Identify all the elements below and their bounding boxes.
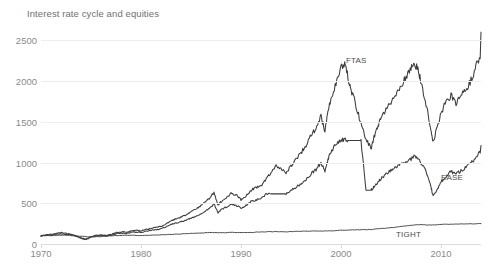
gridline-y [41,122,481,123]
x-axis-labels: 19701980199020002010 [41,248,481,264]
series-annotation-ease: EASE [441,173,463,182]
gridline-y [41,163,481,164]
chart-container: Interest rate cycle and equities 0500100… [0,0,491,277]
gridline-y [41,81,481,82]
x-axis-tick-mark [241,244,242,248]
series-lines [41,24,481,244]
series-annotation-ftas: FTAS [346,56,367,65]
x-axis-tick-label: 1990 [230,248,251,259]
series-line-ftas [41,32,481,240]
x-axis-tick-label: 1970 [30,248,51,259]
x-axis-tick-mark [341,244,342,248]
x-axis-tick-label: 2000 [330,248,351,259]
y-axis-tick-label: 1500 [16,116,37,127]
y-axis-tick-label: 2000 [16,76,37,87]
y-axis-tick-label: 1000 [16,157,37,168]
plot-area: FTASEASETIGHT [41,24,481,244]
gridline-y [41,203,481,204]
y-axis-tick-label: 500 [21,198,37,209]
x-axis-tick-mark [41,244,42,248]
series-line-ease [41,138,481,239]
series-annotation-tight: TIGHT [396,230,421,239]
x-axis-tick-mark [441,244,442,248]
x-axis-tick-label: 2010 [430,248,451,259]
gridline-y [41,40,481,41]
x-axis-tick-label: 1980 [130,248,151,259]
gridline-y [41,244,481,245]
y-axis-labels: 05001000150020002500 [0,24,37,244]
chart-title: Interest rate cycle and equities [27,8,159,19]
x-axis-tick-mark [141,244,142,248]
y-axis-tick-label: 2500 [16,35,37,46]
